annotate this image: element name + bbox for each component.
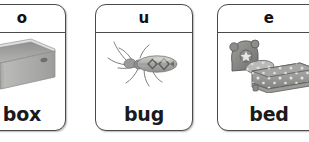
flashcard-box-letter: o (17, 11, 28, 26)
flashcard-bed-header: e (218, 5, 309, 33)
flashcard-bed-image (218, 33, 309, 95)
flashcard-bed-letter: e (264, 11, 274, 26)
flashcard-strip: o (0, 0, 309, 142)
flashcard-bed-word: bed (218, 105, 309, 124)
flashcard-box-image (0, 33, 65, 95)
flashcard-bug-image (96, 33, 192, 95)
beetle-bug-icon (104, 36, 184, 92)
open-cardboard-box-icon (0, 35, 63, 93)
flashcard-bug-word: bug (96, 105, 192, 124)
flashcard-box-header: o (0, 5, 65, 33)
flashcard-box[interactable]: o (0, 4, 66, 131)
flashcard-bug-letter: u (139, 11, 150, 26)
flashcard-box-word: box (0, 105, 65, 124)
flashcard-bug[interactable]: u (95, 4, 193, 131)
flashcard-bed[interactable]: e (217, 4, 309, 131)
bed-icon (222, 35, 309, 93)
flashcard-bug-header: u (96, 5, 192, 33)
